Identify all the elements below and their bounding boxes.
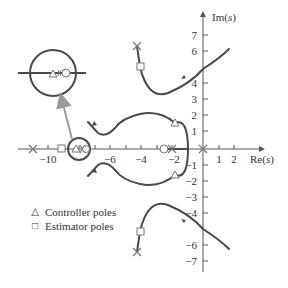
- y-tick-label: 7: [192, 29, 198, 41]
- inset-pointer-arrow: [62, 100, 72, 139]
- root-locus-plot: −10 −6 −4 −2 1 2 7 6 4 3 2 1 −1 −2 −3 −4…: [0, 0, 288, 288]
- x-tick-label: −4: [135, 153, 147, 165]
- locus-branch-lower: [137, 204, 229, 252]
- inset-magnified-view: [18, 50, 86, 96]
- triangle-icon: [171, 171, 179, 178]
- y-tick-label: −7: [185, 255, 197, 267]
- zero-icon: [62, 69, 70, 77]
- y-tick-label: −6: [185, 239, 197, 251]
- x-tick-label: 1: [216, 153, 222, 165]
- y-tick-label: 3: [192, 93, 198, 105]
- legend: △ Controller poles □ Estimator poles: [30, 205, 116, 233]
- x-tick-label: 2: [231, 153, 237, 165]
- legend-item-controller-poles: △ Controller poles: [30, 205, 116, 219]
- triangle-icon: △: [30, 205, 40, 219]
- y-tick-label: −3: [185, 191, 197, 203]
- y-axis-label: Im(s): [212, 11, 236, 24]
- square-icon: [58, 145, 65, 152]
- zero-icon: [160, 145, 168, 153]
- y-tick-label: 6: [192, 45, 198, 57]
- square-icon: [137, 228, 144, 235]
- zero-icon: [83, 146, 90, 153]
- x-tick-label: −10: [39, 153, 57, 165]
- locus-branch-upper: [137, 46, 229, 94]
- locus-branch-upper-loop: [88, 113, 188, 149]
- legend-item-estimator-poles: □ Estimator poles: [30, 219, 116, 233]
- square-icon: □: [30, 219, 40, 233]
- y-tick-label: 2: [192, 109, 198, 121]
- y-tick-label: 1: [192, 125, 198, 137]
- legend-label: Controller poles: [45, 205, 116, 219]
- legend-label: Estimator poles: [45, 219, 114, 233]
- y-tick-label: −2: [185, 175, 197, 187]
- x-tick-label: −2: [168, 153, 180, 165]
- x-axis-label: Re(s): [250, 153, 274, 166]
- square-icon: [137, 63, 144, 70]
